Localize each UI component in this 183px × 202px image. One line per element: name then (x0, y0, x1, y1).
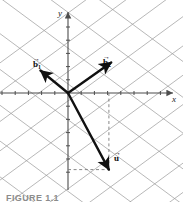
axis-x (0, 91, 173, 95)
axis-y (66, 12, 70, 190)
figure-caption: FIGURE 1.1 (6, 192, 181, 202)
axis-label-y: y (58, 9, 62, 18)
vector-label-b1: → b1 (33, 60, 41, 69)
vector-label-b1-subscript: 1 (38, 64, 41, 70)
lattice-plot (0, 0, 183, 202)
figure-container: x y → b1 → b2 → u FIGURE 1.1 (0, 0, 183, 202)
vector-label-b2: → b2 (103, 58, 111, 67)
vector-label-b2-subscript: 2 (108, 62, 111, 68)
vector-label-u-base: u (114, 153, 119, 163)
axis-label-x: x (172, 95, 176, 104)
vector-label-u: → u (114, 154, 119, 163)
